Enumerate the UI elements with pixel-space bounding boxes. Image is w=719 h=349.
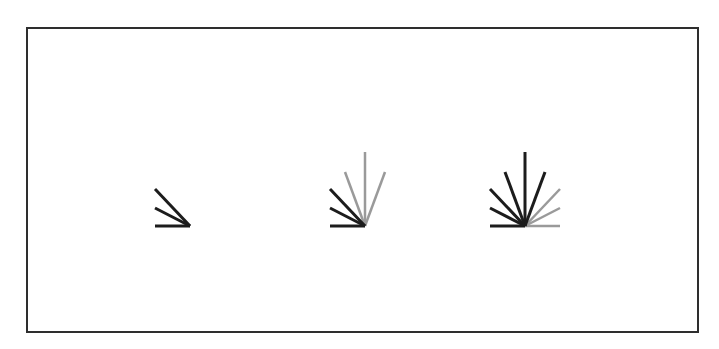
ray-dark xyxy=(155,208,190,226)
ray-dark xyxy=(490,189,525,226)
ray-dark xyxy=(330,189,365,226)
fan-group xyxy=(155,152,560,226)
fan-3 xyxy=(490,152,560,226)
fan-1 xyxy=(155,189,190,226)
fan-2 xyxy=(330,152,385,226)
diagram-frame xyxy=(27,28,698,332)
diagram-canvas xyxy=(0,0,719,349)
ray-light xyxy=(365,172,385,226)
ray-dark xyxy=(155,189,190,226)
ray-light xyxy=(525,189,560,226)
